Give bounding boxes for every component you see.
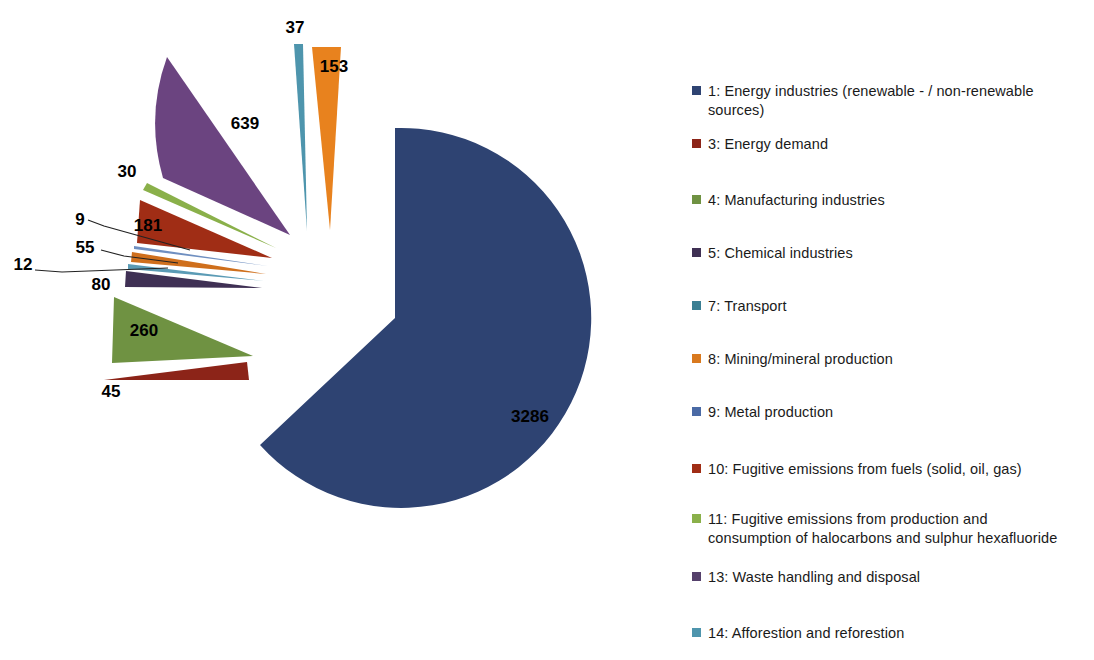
pie-label-80: 80	[92, 275, 111, 294]
pie-label-37: 37	[286, 18, 305, 37]
legend-item-13[interactable]: 13: Waste handling and disposal	[692, 568, 920, 587]
pie-label-12: 12	[14, 255, 33, 274]
pie-label-639: 639	[231, 114, 259, 133]
legend-swatch-14-icon	[692, 628, 701, 637]
legend-item-5[interactable]: 5: Chemical industries	[692, 244, 853, 263]
legend-swatch-3-icon	[692, 139, 701, 148]
pie-label-260: 260	[130, 321, 158, 340]
legend-label-3: 3: Energy demand	[708, 135, 828, 154]
legend-swatch-10-icon	[692, 464, 701, 473]
legend-item-3[interactable]: 3: Energy demand	[692, 135, 828, 154]
pie-label-55: 55	[76, 238, 95, 257]
legend-item-1[interactable]: 1: Energy industries (renewable - / non-…	[692, 82, 1064, 120]
legend-swatch-4-icon	[692, 195, 701, 204]
pie-label-30: 30	[118, 162, 137, 181]
legend-item-9[interactable]: 9: Metal production	[692, 403, 833, 422]
legend-item-14[interactable]: 14: Afforestion and reforestion	[692, 624, 904, 643]
legend-swatch-11-icon	[692, 514, 701, 523]
pie-label-45: 45	[102, 382, 121, 401]
legend-label-1: 1: Energy industries (renewable - / non-…	[708, 82, 1060, 120]
pie-slice-waste-handling[interactable]	[155, 57, 290, 235]
pie-slice-energy-demand[interactable]	[104, 362, 249, 380]
legend-swatch-7-icon	[692, 301, 701, 310]
legend-item-11[interactable]: 11: Fugitive emissions from production a…	[692, 510, 1064, 548]
pie-label-9: 9	[75, 210, 84, 229]
pie-label-153: 153	[320, 57, 348, 76]
legend-label-9: 9: Metal production	[708, 403, 833, 422]
legend-label-4: 4: Manufacturing industries	[708, 191, 885, 210]
pie-chart-svg: 3286 45 260 80 12 55 9 181 30 639 37 153	[0, 0, 680, 660]
pie-chart-area: 3286 45 260 80 12 55 9 181 30 639 37 153	[0, 0, 680, 660]
legend-swatch-8-icon	[692, 354, 701, 363]
legend-label-13: 13: Waste handling and disposal	[708, 568, 920, 587]
legend-item-4[interactable]: 4: Manufacturing industries	[692, 191, 885, 210]
legend-label-5: 5: Chemical industries	[708, 244, 853, 263]
legend-swatch-1-icon	[692, 86, 701, 95]
legend-label-10: 10: Fugitive emissions from fuels (solid…	[708, 460, 1022, 479]
legend-swatch-5-icon	[692, 248, 701, 257]
legend-label-7: 7: Transport	[708, 297, 787, 316]
legend-item-8[interactable]: 8: Mining/mineral production	[692, 350, 893, 369]
pie-label-181: 181	[134, 216, 162, 235]
legend-item-7[interactable]: 7: Transport	[692, 297, 787, 316]
legend-label-8: 8: Mining/mineral production	[708, 350, 893, 369]
chart-legend: 1: Energy industries (renewable - / non-…	[692, 60, 1088, 640]
legend-item-10[interactable]: 10: Fugitive emissions from fuels (solid…	[692, 460, 1060, 479]
legend-label-11: 11: Fugitive emissions from production a…	[708, 510, 1060, 548]
legend-swatch-13-icon	[692, 572, 701, 581]
pie-label-3286: 3286	[511, 407, 549, 426]
legend-swatch-9-icon	[692, 407, 701, 416]
pie-slice-afforestion-reforestion[interactable]	[294, 44, 307, 231]
pie-slice-energy-industries[interactable]	[260, 128, 591, 508]
legend-label-14: 14: Afforestion and reforestion	[708, 624, 904, 643]
